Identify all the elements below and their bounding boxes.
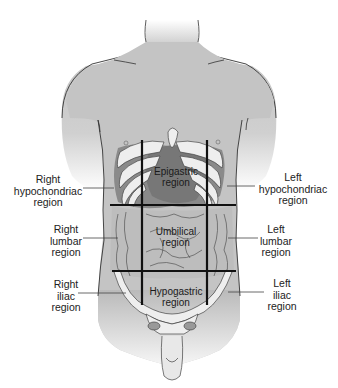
left-hypochondriac-label: Left hypochondriac region bbox=[254, 172, 332, 207]
abdominal-regions-diagram: Epigastric region Umbilical region Hypog… bbox=[0, 0, 338, 388]
hypogastric-label: Hypogastric region bbox=[146, 286, 206, 308]
left-lumbar-label: Left lumbar region bbox=[256, 224, 296, 259]
right-iliac-label: Right iliac region bbox=[46, 279, 86, 314]
epigastric-label: Epigastric region bbox=[148, 166, 204, 188]
umbilical-label: Umbilical region bbox=[148, 226, 204, 248]
right-lumbar-label: Right lumbar region bbox=[46, 224, 86, 259]
right-hypochondriac-label: Right hypochondriac region bbox=[10, 174, 86, 209]
left-iliac-label: Left iliac region bbox=[262, 278, 302, 313]
organs bbox=[110, 143, 234, 278]
